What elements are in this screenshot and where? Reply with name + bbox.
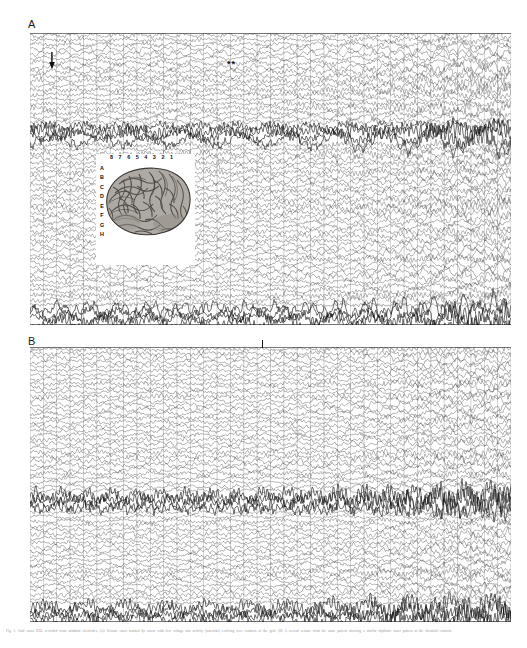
inset-col-label: 6 — [127, 154, 130, 160]
inset-row-label: B — [100, 174, 104, 180]
inset-row-label: F — [100, 212, 103, 218]
fast-activity-asterisks: ** — [227, 60, 236, 69]
brain-lateral-view-image — [99, 162, 195, 242]
inset-column-labels: 8 7 6 5 4 3 2 1 — [110, 154, 173, 160]
inset-row-labels: A B C D E F G H — [98, 165, 106, 237]
inset-col-label: 3 — [153, 154, 156, 160]
onset-tick-marker — [262, 340, 263, 348]
panel-a-label: A — [28, 19, 35, 30]
seizure-onset-arrow-icon — [49, 52, 55, 70]
inset-col-label: 5 — [136, 154, 139, 160]
inset-row-label: G — [100, 222, 104, 228]
inset-col-label: 8 — [110, 154, 113, 160]
inset-col-label: 7 — [119, 154, 122, 160]
panel-b-label: B — [28, 336, 35, 347]
panel-b-trace-canvas — [30, 347, 511, 622]
inset-row-label: C — [100, 184, 104, 190]
figure-caption: Fig. 2. Ictal onset EEG recorded from su… — [6, 629, 521, 645]
eeg-figure: A ** 8 7 6 5 4 3 2 1 — [0, 0, 527, 648]
inset-col-label: 1 — [170, 154, 173, 160]
brain-electrode-grid-inset: 8 7 6 5 4 3 2 1 — [96, 154, 195, 265]
inset-row-label: A — [100, 165, 104, 171]
panel-b-eeg-traces — [30, 347, 511, 622]
inset-row-label: H — [100, 231, 104, 237]
inset-col-label: 4 — [144, 154, 147, 160]
inset-col-label: 2 — [161, 154, 164, 160]
inset-row-label: E — [100, 203, 104, 209]
inset-row-label: D — [100, 193, 104, 199]
